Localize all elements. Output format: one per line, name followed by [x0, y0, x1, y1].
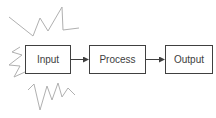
node-process: Process: [89, 45, 146, 74]
node-output: Output: [165, 45, 213, 74]
node-output-label: Output: [174, 54, 204, 65]
node-process-label: Process: [99, 54, 135, 65]
node-input-label: Input: [37, 54, 59, 65]
node-input: Input: [25, 45, 71, 74]
